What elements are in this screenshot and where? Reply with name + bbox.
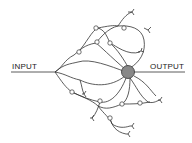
branching-network-diagram	[0, 0, 192, 143]
output-hub-node	[122, 66, 135, 79]
